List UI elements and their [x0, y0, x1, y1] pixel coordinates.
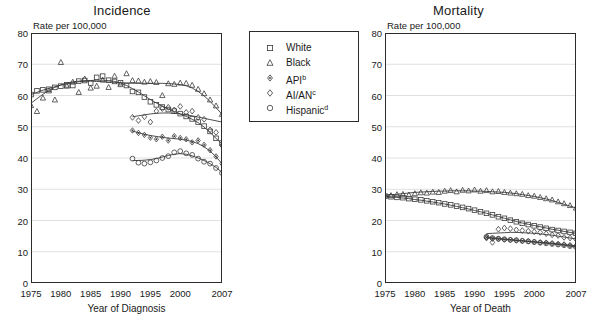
legend-label: Black: [286, 56, 310, 70]
series-ai-an: [130, 104, 222, 149]
x-tick-label: 2000: [524, 288, 545, 299]
x-tick-label: 1995: [140, 288, 161, 299]
incidence-plot-area: 0102030405060708019751980198519901995200…: [31, 33, 222, 283]
x-tick-label: 1995: [494, 288, 515, 299]
y-tick-label: 10: [17, 246, 28, 257]
y-tick-label: 30: [17, 184, 28, 195]
mortality-plot-area: 0102030405060708019751980198519901995200…: [385, 33, 576, 283]
chart-legend: WhiteBlackAPIbAI/ANcHispanicd: [249, 31, 359, 122]
x-tick-label: 1975: [20, 288, 41, 299]
y-tick-label: 0: [377, 278, 382, 289]
incidence-y-axis-label: Rate per 100,000: [33, 20, 106, 31]
x-tick-label: 1980: [404, 288, 425, 299]
circle-marker-icon: [262, 101, 278, 115]
series-black: [385, 187, 576, 210]
y-tick-label: 20: [17, 215, 28, 226]
y-tick-label: 80: [371, 28, 382, 39]
x-tick-label: 1980: [50, 288, 71, 299]
diamond-dot-marker-icon: [262, 71, 278, 85]
diamond-marker-icon: [262, 86, 278, 100]
series-hispanic: [130, 149, 222, 176]
y-tick-label: 30: [371, 184, 382, 195]
x-tick-label: 1990: [464, 288, 485, 299]
x-tick-label: 1990: [110, 288, 131, 299]
legend-label: White: [286, 41, 312, 55]
y-tick-label: 50: [371, 121, 382, 132]
x-tick-label: 1985: [80, 288, 101, 299]
x-tick-label: 2000: [170, 288, 191, 299]
y-tick-label: 50: [17, 121, 28, 132]
y-tick-label: 60: [371, 90, 382, 101]
incidence-title: Incidence: [0, 3, 272, 18]
mortality-title: Mortality: [310, 3, 597, 18]
series-white: [385, 194, 576, 236]
mortality-x-axis-label: Year of Death: [385, 303, 576, 314]
legend-footnote-marker: c: [312, 89, 316, 96]
x-tick-label: 2007: [565, 288, 586, 299]
y-tick-label: 0: [23, 278, 28, 289]
y-tick-label: 80: [17, 28, 28, 39]
legend-footnote-marker: b: [302, 74, 306, 81]
y-tick-label: 70: [17, 59, 28, 70]
legend-footnote-marker: d: [324, 104, 328, 111]
legend-label: Hispanicd: [286, 101, 328, 118]
y-tick-label: 70: [371, 59, 382, 70]
y-tick-label: 10: [371, 246, 382, 257]
triangle-marker-icon: [262, 56, 278, 70]
mortality-y-axis-label: Rate per 100,000: [387, 20, 460, 31]
series-ai-an: [484, 225, 576, 245]
x-tick-label: 2007: [211, 288, 232, 299]
x-tick-label: 1985: [434, 288, 455, 299]
plot-svg: [385, 33, 576, 283]
y-tick-label: 40: [371, 153, 382, 164]
y-tick-label: 20: [371, 215, 382, 226]
y-tick-label: 40: [17, 153, 28, 164]
y-tick-label: 60: [17, 90, 28, 101]
x-tick-label: 1975: [374, 288, 395, 299]
square-marker-icon: [262, 41, 278, 55]
plot-svg: [31, 33, 222, 283]
incidence-x-axis-label: Year of Diagnosis: [31, 303, 222, 314]
